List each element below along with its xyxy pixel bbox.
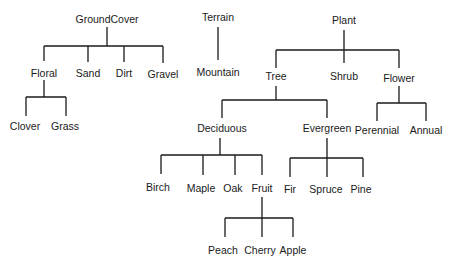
node-sand: Sand [76,68,101,79]
node-oak: Oak [223,183,242,194]
node-pine: Pine [350,184,371,195]
node-cherry: Cherry [244,245,276,256]
node-annual: Annual [410,125,443,136]
hierarchy-diagram: GroundCover Floral Sand Dirt Gravel Clov… [0,0,450,267]
node-birch: Birch [146,182,170,193]
node-clover: Clover [10,121,40,132]
node-peach: Peach [208,245,238,256]
node-deciduous: Deciduous [197,123,247,134]
node-shrub: Shrub [330,71,358,82]
node-groundcover: GroundCover [75,14,138,25]
node-perennial: Perennial [355,125,399,136]
node-spruce: Spruce [309,184,342,195]
node-fruit: Fruit [252,183,273,194]
node-apple: Apple [280,245,307,256]
node-dirt: Dirt [116,68,132,79]
node-grass: Grass [51,121,79,132]
node-evergreen: Evergreen [303,123,351,134]
node-plant: Plant [332,15,356,26]
node-fir: Fir [284,184,296,195]
node-gravel: Gravel [148,69,179,80]
node-terrain: Terrain [202,12,234,23]
node-flower: Flower [383,73,415,84]
node-maple: Maple [187,183,216,194]
node-floral: Floral [31,68,57,79]
node-mountain: Mountain [196,67,239,78]
node-tree: Tree [265,71,286,82]
